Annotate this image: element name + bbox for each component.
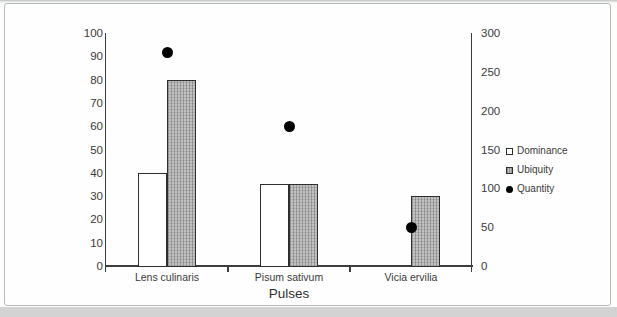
bar-ubiquity-pisum-sativum [289,184,318,267]
right-axis-tick-label: 50 [481,220,521,234]
left-axis-tick-label: 40 [63,166,103,180]
left-axis-tick-label: 80 [63,73,103,87]
left-axis-tick-label: 90 [63,49,103,63]
legend-label: Ubiquity [517,164,553,176]
left-axis-tick-label: 10 [63,236,103,250]
chart-figure: Pulses 010203040506070809010005010015020… [0,0,617,317]
left-axis-tick-label: 30 [63,189,103,203]
left-axis-tick-label: 50 [63,143,103,157]
bar-ubiquity-vicia-ervilia [411,196,440,267]
legend-marker-dot [506,186,513,193]
right-axis-tick-label: 300 [481,26,521,40]
category-label-lens-culinaris: Lens culinaris [106,271,228,284]
bar-dominance-lens-culinaris [138,173,167,267]
y-axis-right [471,33,472,272]
legend-marker-pattern-square [506,167,513,174]
legend-item-ubiquity: Ubiquity [506,164,553,176]
legend-item-quantity: Quantity [506,183,554,195]
right-axis-tick-label: 0 [481,259,521,273]
legend-item-dominance: Dominance [506,145,568,157]
left-axis-tick-label: 100 [63,26,103,40]
dot-quantity-lens-culinaris [162,47,173,58]
category-label-pisum-sativum: Pisum sativum [228,271,350,284]
bar-dominance-pisum-sativum [260,184,289,267]
left-axis-tick-label: 60 [63,119,103,133]
left-axis-tick-label: 0 [63,259,103,273]
x-axis-title: Pulses [106,286,472,301]
legend-label: Dominance [517,145,568,157]
right-axis-tick-label: 250 [481,65,521,79]
bar-ubiquity-lens-culinaris [167,80,196,267]
dot-quantity-vicia-ervilia [406,222,417,233]
right-axis-tick-label: 200 [481,104,521,118]
category-label-vicia-ervilia: Vicia ervilia [350,271,472,284]
legend-marker-open-square [506,148,513,155]
plot-area: Pulses 010203040506070809010005010015020… [0,0,617,317]
left-axis-tick-label: 20 [63,212,103,226]
legend-label: Quantity [517,183,554,195]
y-axis-left [105,33,106,272]
left-axis-tick-label: 70 [63,96,103,110]
dot-quantity-pisum-sativum [284,121,295,132]
